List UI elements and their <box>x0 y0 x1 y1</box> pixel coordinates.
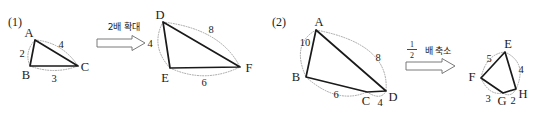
length-label-df: 8 <box>208 24 213 35</box>
vertex-label-p2-g: G <box>497 94 506 108</box>
part-1-target-triangle: D E F 4 6 8 <box>147 8 252 88</box>
vertex-label-p2-d: D <box>388 90 397 104</box>
length-label-p2-cd: 4 <box>377 97 383 108</box>
right-arrow-icon-1 <box>97 36 145 51</box>
vertex-label-a: A <box>24 26 33 40</box>
length-label-p2-ad: 8 <box>375 52 380 63</box>
vertex-label-c: C <box>81 60 89 74</box>
vertex-label-p2-b: B <box>292 70 300 84</box>
operation-1-text: 2배 확대 <box>108 21 141 32</box>
part-2-target-quad: E F G H 5 4 3 2 <box>469 37 528 108</box>
part-2-label: (2) <box>272 15 286 29</box>
triangle-def-outline <box>163 22 240 68</box>
length-label-p2-ab: 10 <box>300 37 311 48</box>
part-1-source-triangle: A B C 2 3 4 <box>19 26 89 84</box>
part-1-operation: 2배 확대 <box>97 21 145 51</box>
length-label-ab: 2 <box>19 48 24 59</box>
length-label-p2-eh: 4 <box>518 64 524 75</box>
quad-abcd-outline <box>306 30 386 92</box>
length-label-ac: 4 <box>58 39 64 50</box>
vertex-label-p2-c: C <box>362 94 370 108</box>
figure-canvas: (1) A B C 2 3 4 2배 확대 D E F 4 6 8 (2) <box>0 0 537 115</box>
fraction-numerator: 1 <box>410 40 414 49</box>
vertex-label-p2-h: H <box>518 87 527 101</box>
length-label-bc: 3 <box>51 73 56 84</box>
length-label-p2-bc: 6 <box>333 89 338 100</box>
part-2-source-quad: A B C D 10 8 6 4 <box>292 15 398 108</box>
triangle-abc-outline <box>30 40 78 66</box>
length-label-p2-ef: 5 <box>486 53 491 64</box>
vertex-label-e: E <box>161 71 169 85</box>
fraction-denominator: 2 <box>410 51 414 60</box>
length-label-de: 4 <box>147 38 153 49</box>
length-label-ef: 6 <box>201 77 206 88</box>
vertex-label-p2-e: E <box>504 37 512 51</box>
length-label-p2-gh: 2 <box>510 95 515 106</box>
math-figure-worksheet: (1) A B C 2 3 4 2배 확대 D E F 4 6 8 (2) <box>0 0 537 115</box>
part-1-label: (1) <box>8 15 22 29</box>
vertex-label-p2-f: F <box>469 70 476 84</box>
operation-2-text: 배 축소 <box>425 46 452 56</box>
vertex-label-d: D <box>155 8 164 22</box>
length-label-p2-fg: 3 <box>485 93 490 104</box>
part-2-operation: 1 2 배 축소 <box>406 40 455 74</box>
right-arrow-icon-2 <box>406 59 455 74</box>
vertex-label-p2-a: A <box>314 15 323 29</box>
vertex-label-b: B <box>22 68 30 82</box>
vertex-label-f: F <box>246 61 253 75</box>
